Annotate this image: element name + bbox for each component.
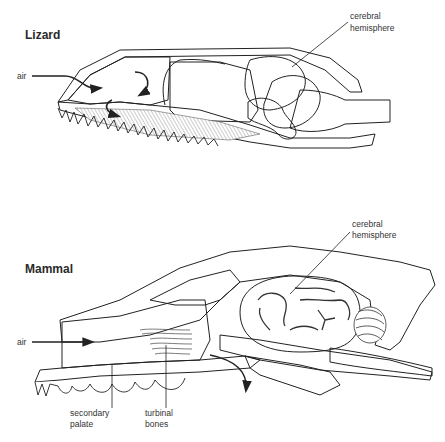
lizard-air-arrow-turn (135, 72, 148, 95)
lizard-cerebral-label-2: hemisphere (350, 23, 395, 33)
palate-label-2: palate (70, 419, 93, 429)
mammal-skull-section: Mammal (17, 219, 435, 429)
lizard-cerebral-label-1: cerebral (350, 11, 381, 21)
palate-label-1: secondary (70, 408, 110, 418)
lizard-orbit-region (170, 62, 258, 122)
mammal-pharynx (245, 356, 340, 395)
lizard-brain (245, 57, 390, 140)
lizard-air-arrow (32, 76, 100, 88)
lizard-nasal-cavity (68, 57, 170, 105)
mammal-title: Mammal (25, 262, 73, 276)
lizard-cerebral-pointer (292, 22, 348, 67)
lizard-skull-section: Lizard air cerebral hemisphere (17, 11, 395, 148)
turbinal-label-1: turbinal (145, 408, 173, 418)
skull-comparison-diagram: Lizard air cerebral hemisphere (0, 0, 445, 442)
mammal-air-exit-arrow (210, 355, 246, 390)
mammal-cerebellum (354, 307, 386, 343)
mammal-air-label: air (17, 337, 27, 347)
mammal-cerebral-label-1: cerebral (352, 219, 383, 229)
lizard-air-label: air (17, 71, 27, 81)
lizard-skull-roof (58, 48, 362, 102)
lizard-title: Lizard (25, 28, 60, 42)
lizard-jaw-muscle (75, 108, 260, 140)
turbinal-label-2: bones (145, 419, 168, 429)
mammal-cerebral-label-2: hemisphere (352, 230, 397, 240)
mammal-cerebral-pointer (290, 232, 350, 294)
